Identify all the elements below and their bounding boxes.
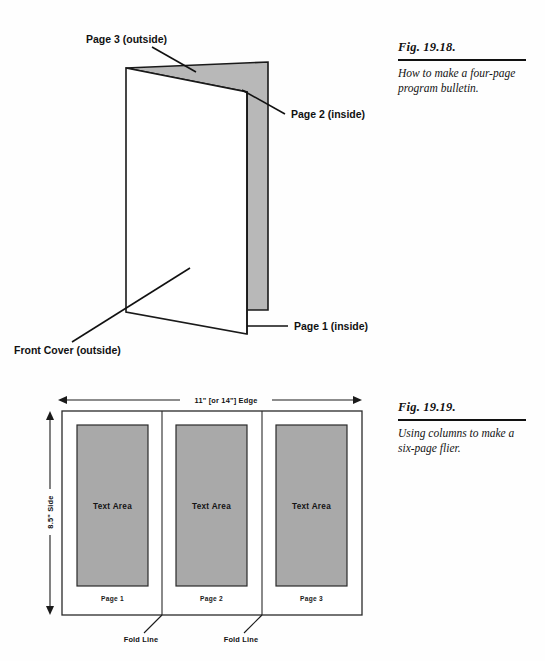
flier-column-1: Text Area Page 1 [77,425,148,603]
caption-rule [398,419,526,421]
page3-outside-label: Page 3 (outside) [86,33,167,45]
figure-caption-19-18: Fig. 19.18. How to make a four-page prog… [398,40,530,97]
figure-description-19-18: How to make a four-page program bulletin… [398,66,530,97]
text-area-label-1: Text Area [93,502,132,511]
horizontal-dimension-label: 11" [or 14"] Edge [195,396,258,405]
figure-caption-19-19: Fig. 19.19. Using columns to make a six-… [398,400,530,457]
vertical-dimension-label: 8.5" Side [46,495,55,528]
figure-number-19-19: Fig. 19.19. [398,400,530,415]
text-area-label-2: Text Area [192,502,231,511]
horizontal-dimension: 11" [or 14"] Edge [58,396,362,405]
caption-rule [398,59,526,61]
page1-inside-label: Page 1 (inside) [294,320,368,332]
figure-description-19-19: Using columns to make a six-page flier. [398,426,530,457]
fold-line-2-leader [244,615,262,633]
page-label-2: Page 2 [200,595,223,603]
flier-column-3: Text Area Page 3 [276,425,347,603]
front-cover-outside-label: Front Cover (outside) [14,344,121,356]
figure-number-19-18: Fig. 19.18. [398,40,530,55]
document-page: Page 3 (outside) Page 2 (inside) Page 1 … [0,0,545,661]
fold-line-1-label: Fold Line [124,635,159,644]
fold-line-2-label: Fold Line [224,635,259,644]
page-label-3: Page 3 [300,595,323,603]
flier-column-2: Text Area Page 2 [176,425,247,603]
fold-line-1-leader [144,615,162,633]
page2-inside-label: Page 2 (inside) [291,108,365,120]
front-cover-panel [126,68,247,334]
vertical-dimension: 8.5" Side [46,411,55,615]
page-label-1: Page 1 [101,595,124,603]
four-page-bulletin-diagram: Page 3 (outside) Page 2 (inside) Page 1 … [0,0,390,375]
six-page-flier-diagram: 11" [or 14"] Edge 8.5" Side Text Area Pa… [40,385,385,645]
text-area-label-3: Text Area [292,502,331,511]
